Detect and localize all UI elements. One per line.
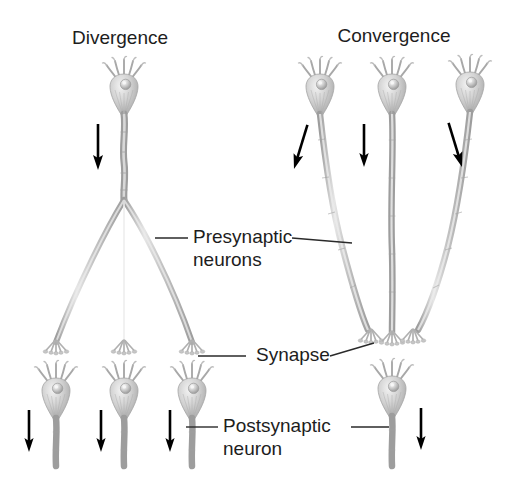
divergence-axon-branches — [56, 200, 192, 342]
postsynaptic-neuron — [103, 360, 146, 466]
synaptic-terminal — [400, 329, 426, 344]
presynaptic-neuron — [371, 56, 414, 332]
panel-title-convergence: Convergence — [337, 25, 450, 46]
callout-label-presynaptic-line1: Presynaptic — [193, 226, 292, 247]
leader-line-right — [330, 343, 374, 356]
presynaptic-neuron — [418, 54, 492, 330]
postsynaptic-neuron — [35, 360, 78, 466]
synaptic-terminal — [111, 340, 137, 355]
callout-label-synapse: Synapse — [256, 344, 330, 365]
synaptic-terminal — [43, 340, 69, 355]
callout-label-presynaptic-line2: neurons — [193, 249, 262, 270]
axon-branch-right — [124, 200, 192, 342]
axon-trunk — [120, 114, 128, 200]
figure-root: Divergence Convergence — [0, 0, 508, 485]
presynaptic-neuron — [299, 56, 369, 330]
postsynaptic-neuron — [171, 360, 214, 466]
flow-arrow — [96, 410, 105, 452]
flow-arrow — [24, 410, 33, 452]
callout-presynaptic-neurons: Presynaptic neurons — [155, 226, 352, 270]
neuron-diagram: Divergence Convergence — [0, 0, 508, 485]
callout-label-postsynaptic-line1: Postsynaptic — [223, 415, 331, 436]
callout-synapse: Synapse — [198, 343, 374, 365]
flow-arrow — [93, 124, 103, 170]
flow-arrow — [165, 410, 174, 452]
synaptic-terminal — [379, 331, 405, 346]
panel-title-divergence: Divergence — [72, 27, 168, 48]
divergence-postsynaptic-neurons — [35, 360, 214, 466]
panel-convergence — [289, 54, 491, 466]
synaptic-terminal — [179, 340, 205, 355]
axon-branch-left — [56, 200, 124, 342]
soma — [103, 56, 146, 117]
flow-arrow — [289, 123, 312, 170]
flow-arrow — [359, 124, 368, 167]
convergence-postsynaptic-neuron — [371, 358, 414, 466]
callout-label-postsynaptic-line2: neuron — [223, 438, 282, 459]
convergence-presynaptic-neurons — [299, 54, 492, 332]
callout-postsynaptic-neuron: Postsynaptic neuron — [186, 415, 389, 459]
panel-divergence — [24, 56, 213, 466]
flow-arrow — [416, 408, 425, 450]
divergence-presynaptic-neuron — [103, 56, 146, 200]
